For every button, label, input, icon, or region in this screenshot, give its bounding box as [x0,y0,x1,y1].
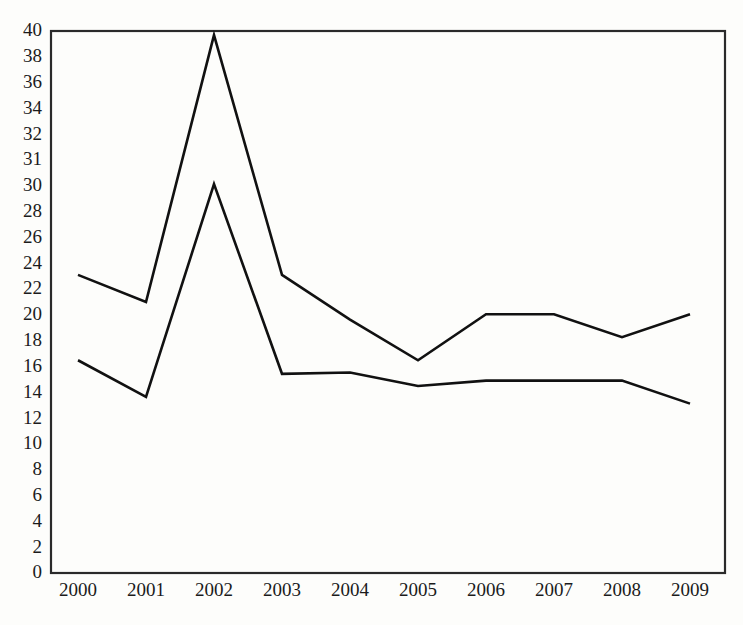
y-tick-label: 8 [33,458,43,479]
line-chart: 403836343231302826242220181614121086420 … [0,0,743,625]
y-tick-label: 14 [23,381,43,402]
y-tick-label: 28 [23,200,42,221]
y-tick-label: 34 [23,97,43,118]
y-tick-label: 31 [23,148,42,169]
y-tick-label: 30 [23,174,42,195]
x-tick-label: 2004 [331,579,370,600]
plot-frame [51,31,725,573]
x-tick-label: 2008 [603,579,641,600]
y-tick-label: 26 [23,226,42,247]
y-tick-label: 0 [33,561,43,582]
x-tick-label: 2009 [671,579,709,600]
y-axis-tick-labels: 403836343231302826242220181614121086420 [23,19,43,582]
y-tick-label: 4 [33,510,43,531]
y-tick-label: 16 [23,355,42,376]
y-tick-label: 6 [33,484,43,505]
x-tick-label: 2001 [127,579,165,600]
y-tick-label: 20 [23,303,42,324]
y-tick-label: 24 [23,252,43,273]
y-tick-label: 2 [33,536,43,557]
y-tick-label: 38 [23,45,42,66]
x-tick-label: 2003 [263,579,301,600]
x-tick-label: 2005 [399,579,437,600]
x-tick-label: 2002 [195,579,233,600]
y-tick-label: 18 [23,329,42,350]
x-tick-label: 2007 [535,579,573,600]
plot-frame-group [51,31,725,573]
x-tick-label: 2000 [59,579,97,600]
x-tick-label: 2006 [467,579,505,600]
y-tick-label: 10 [23,432,42,453]
series-line-upper-series [78,35,690,360]
y-tick-label: 36 [23,71,42,92]
y-tick-label: 32 [23,123,42,144]
y-tick-label: 12 [23,407,42,428]
x-axis-tick-labels: 2000200120022003200420052006200720082009 [59,579,709,600]
data-series-group [78,35,690,404]
series-line-lower-series [78,184,690,404]
chart-container: 403836343231302826242220181614121086420 … [0,0,743,625]
y-tick-label: 22 [23,277,42,298]
y-tick-label: 40 [23,19,42,40]
